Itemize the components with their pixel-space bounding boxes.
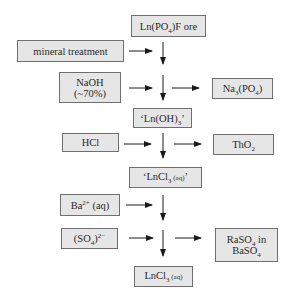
node-sulfate: (SO4)2−: [61, 228, 118, 249]
node-ln-oh3: ‘Ln(OH)3’: [133, 108, 192, 128]
node-hcl: HCl: [62, 133, 119, 152]
node-tho2: ThO2: [213, 134, 274, 155]
node-naoh: NaOH (~70%): [59, 72, 121, 103]
node-ore: Ln(PO4)F ore: [131, 15, 206, 37]
node-raso4-in-baso4: RaSO4 in BaSO4: [215, 228, 278, 262]
node-mineral-treatment: mineral treatment: [17, 40, 124, 62]
node-lncl3-product: LnCl3 (aq): [134, 266, 193, 287]
node-ba2plus: Ba2+ (aq): [60, 194, 120, 216]
node-na3po4: Na3(PO4): [212, 78, 273, 99]
node-lncl3-intermediate: ‘LnCl3 (aq)’: [129, 167, 202, 188]
